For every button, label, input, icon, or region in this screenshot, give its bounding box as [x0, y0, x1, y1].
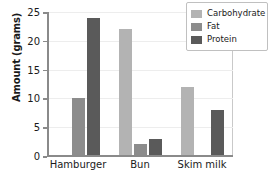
legend-item-fat: Fat — [191, 20, 262, 33]
y-axis-tick-label: 25 — [27, 7, 40, 18]
bar-protein-hamburger — [87, 18, 100, 156]
bar-chart: Amount (grams) 0510152025 HamburgerBunSk… — [0, 0, 269, 184]
y-axis-tick-label: 15 — [27, 64, 40, 75]
x-axis-line — [47, 155, 233, 157]
y-axis-tick-label: 5 — [34, 122, 40, 133]
bar-protein-bun — [149, 139, 162, 156]
legend-swatch-carbohydrate — [191, 10, 202, 18]
y-axis-tick-label: 10 — [27, 93, 40, 104]
gridline — [47, 70, 233, 71]
x-axis-label-skim-milk: Skim milk — [178, 159, 227, 170]
legend-label-protein: Protein — [207, 35, 237, 44]
legend-swatch-protein — [191, 36, 202, 44]
bar-carbohydrate-bun — [119, 29, 132, 156]
x-axis-label-hamburger: Hamburger — [50, 159, 107, 170]
legend-label-fat: Fat — [207, 22, 220, 31]
y-axis-tick-label: 20 — [27, 35, 40, 46]
legend-item-protein: Protein — [191, 33, 262, 46]
y-axis-tick-label: 0 — [34, 151, 40, 162]
y-axis-line — [47, 12, 49, 156]
legend-label-carbohydrate: Carbohydrate — [207, 9, 265, 18]
legend-swatch-fat — [191, 23, 202, 31]
bar-protein-skim-milk — [211, 110, 224, 156]
bar-fat-hamburger — [72, 98, 85, 156]
x-axis-label-bun: Bun — [130, 159, 150, 170]
y-axis-title: Amount (grams) — [11, 0, 22, 118]
chart-legend: Carbohydrate Fat Protein — [186, 2, 268, 51]
bar-carbohydrate-skim-milk — [181, 87, 194, 156]
legend-item-carbohydrate: Carbohydrate — [191, 7, 262, 20]
